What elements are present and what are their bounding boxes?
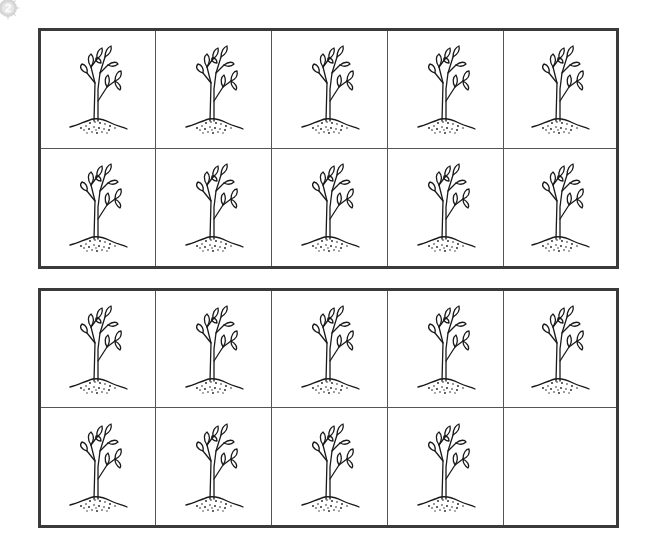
sapling-plant-icon: [67, 43, 129, 135]
frame-cell-filled: [504, 149, 616, 267]
frame-cell-filled: [504, 31, 616, 149]
frame-cell-filled: [388, 149, 504, 267]
frame-cell-filled: [156, 408, 272, 525]
sapling-plant-icon: [415, 303, 477, 395]
frame-cell-empty: [504, 408, 616, 525]
sapling-plant-icon: [299, 43, 361, 135]
frame-cell-filled: [272, 291, 388, 408]
frame-cell-filled: [272, 408, 388, 525]
sapling-plant-icon: [67, 303, 129, 395]
sapling-plant-icon: [415, 421, 477, 513]
frame-cell-filled: [41, 31, 156, 149]
frame-cell-filled: [388, 31, 504, 149]
frame-cell-filled: [41, 408, 156, 525]
sapling-plant-icon: [67, 421, 129, 513]
svg-text:2: 2: [5, 2, 11, 14]
sapling-plant-icon: [183, 303, 245, 395]
frame-cell-filled: [388, 408, 504, 525]
sapling-plant-icon: [299, 421, 361, 513]
frame-cell-filled: [41, 291, 156, 408]
sapling-plant-icon: [415, 43, 477, 135]
frame-cell-filled: [388, 291, 504, 408]
sapling-plant-icon: [67, 161, 129, 253]
sapling-plant-icon: [415, 161, 477, 253]
sapling-plant-icon: [529, 161, 591, 253]
frame-cell-filled: [272, 31, 388, 149]
frame-cell-filled: [504, 291, 616, 408]
frame-cell-filled: [272, 149, 388, 267]
ten-frame-1: [38, 28, 619, 269]
sun-badge-icon: 2: [0, 0, 24, 24]
frame-cell-filled: [156, 291, 272, 408]
sapling-plant-icon: [183, 161, 245, 253]
frame-cell-filled: [41, 149, 156, 267]
sapling-plant-icon: [529, 303, 591, 395]
sapling-plant-icon: [183, 421, 245, 513]
frame-cell-filled: [156, 149, 272, 267]
sapling-plant-icon: [183, 43, 245, 135]
frame-cell-filled: [156, 31, 272, 149]
ten-frame-2: [38, 288, 619, 528]
sapling-plant-icon: [299, 161, 361, 253]
sapling-plant-icon: [299, 303, 361, 395]
sapling-plant-icon: [529, 43, 591, 135]
